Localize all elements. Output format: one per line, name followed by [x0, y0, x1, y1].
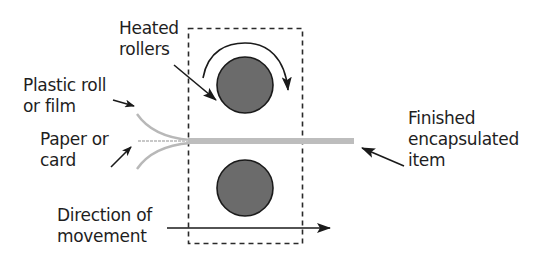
direction-label-line2: movement	[57, 226, 152, 247]
heated-rollers-label: Heated rollers	[119, 18, 179, 60]
heated-rollers-pointer-arrow	[174, 65, 216, 100]
top-heated-roller	[217, 57, 273, 113]
finished-item-label: Finished encapsulated item	[408, 108, 519, 171]
bottom-heated-roller	[217, 160, 273, 216]
finished-item-label-line2: encapsulated	[408, 129, 519, 150]
plastic-roll-label-line2: or film	[23, 96, 106, 117]
plastic-film-top-curve	[137, 114, 190, 140]
finished-item-pointer-arrow	[362, 148, 404, 166]
paper-card-label-line1: Paper or	[40, 129, 109, 150]
finished-item-label-line1: Finished	[408, 108, 519, 129]
encapsulated-strip	[188, 138, 354, 144]
plastic-roll-label: Plastic roll or film	[23, 75, 106, 117]
heated-rollers-label-line2: rollers	[119, 39, 179, 60]
plastic-roll-label-line1: Plastic roll	[23, 75, 106, 96]
paper-pointer-arrow	[111, 147, 131, 167]
laminator-diagram: Heated rollers Plastic roll or film Pape…	[0, 0, 541, 269]
finished-item-label-line3: item	[408, 150, 519, 171]
paper-card-label-line2: card	[40, 150, 109, 171]
direction-label-line1: Direction of	[57, 205, 152, 226]
paper-card-label: Paper or card	[40, 129, 109, 171]
plastic-film-bottom-curve	[137, 143, 190, 169]
plastic-roll-pointer-arrow	[113, 100, 134, 106]
direction-label: Direction of movement	[57, 205, 152, 247]
heated-rollers-label-line1: Heated	[119, 18, 179, 39]
